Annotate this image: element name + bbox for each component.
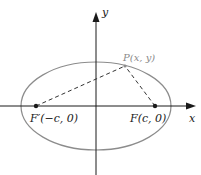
y-axis-arrow-icon xyxy=(93,12,100,22)
point-p-dot xyxy=(123,64,126,67)
x-axis-label: x xyxy=(189,112,196,125)
focus-left-label: F′(−c, 0) xyxy=(29,112,78,125)
focus-right-label: F(c, 0) xyxy=(129,112,166,125)
y-axis-label: y xyxy=(101,6,109,19)
ellipse-diagram: y x P(x, y) F′(−c, 0) F(c, 0) xyxy=(0,0,201,175)
x-axis-arrow-icon xyxy=(186,103,196,110)
dashed-line-right-focus-to-p xyxy=(125,66,155,106)
focus-right-dot xyxy=(153,104,157,108)
point-p-label: P(x, y) xyxy=(122,52,155,63)
focus-left-dot xyxy=(34,104,38,108)
